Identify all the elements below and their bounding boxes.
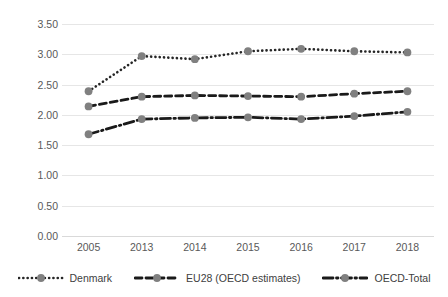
x-tick-label: 2017 [343, 241, 366, 253]
x-tick-label: 2005 [77, 241, 100, 253]
y-tick-label: 2.00 [2, 109, 58, 121]
x-tick-label: 2013 [130, 241, 153, 253]
data-point-marker [297, 45, 305, 53]
data-point-marker [404, 49, 412, 57]
legend-item-denmark[interactable]: Denmark [18, 272, 113, 284]
y-tick-label: 0.50 [2, 200, 58, 212]
data-point-marker [85, 87, 93, 95]
legend-swatch-icon [322, 272, 368, 284]
data-point-marker [297, 115, 305, 123]
data-point-marker [404, 87, 412, 95]
x-tick-label: 2016 [289, 241, 312, 253]
data-point-marker [297, 93, 305, 101]
data-point-marker [350, 112, 358, 120]
y-axis: 0.000.501.001.502.002.503.003.50 [0, 24, 58, 236]
series-denmark [85, 45, 412, 95]
data-point-marker [244, 113, 252, 121]
y-tick-label: 2.50 [2, 79, 58, 91]
legend-label: OECD-Total [374, 272, 430, 284]
series-line [89, 49, 408, 91]
data-point-marker [191, 92, 199, 100]
data-point-marker [191, 55, 199, 63]
x-axis: 2005201320142015201620172018 [62, 241, 434, 257]
y-tick-label: 1.00 [2, 169, 58, 181]
x-tick-label: 2014 [183, 241, 206, 253]
legend-label: Denmark [70, 272, 113, 284]
series-layer [62, 24, 434, 236]
data-point-marker [138, 115, 146, 123]
x-tick-label: 2018 [396, 241, 419, 253]
data-point-marker [138, 93, 146, 101]
legend-item-eu28-oecd-estimates[interactable]: EU28 (OECD estimates) [134, 272, 300, 284]
data-point-marker [138, 52, 146, 60]
legend-swatch-icon [18, 272, 64, 284]
plot-area [62, 24, 434, 236]
data-point-marker [350, 47, 358, 55]
data-point-marker [85, 130, 93, 138]
series-oecd-total [85, 108, 412, 138]
data-point-marker [191, 114, 199, 122]
y-tick-label: 3.00 [2, 48, 58, 60]
y-tick-label: 0.00 [2, 230, 58, 242]
y-tick-label: 1.50 [2, 139, 58, 151]
x-tick-label: 2015 [236, 241, 259, 253]
chart-legend: DenmarkEU28 (OECD estimates)OECD-Total [0, 266, 448, 290]
legend-item-oecd-total[interactable]: OECD-Total [322, 272, 430, 284]
legend-swatch-icon [134, 272, 180, 284]
data-point-marker [404, 108, 412, 116]
line-chart: 0.000.501.001.502.002.503.003.50 2005201… [0, 0, 448, 297]
series-eu28-oecd-estimates [85, 87, 412, 110]
data-point-marker [350, 90, 358, 98]
data-point-marker [244, 47, 252, 55]
data-point-marker [244, 92, 252, 100]
gridline [62, 236, 434, 237]
data-point-marker [85, 102, 93, 110]
y-tick-label: 3.50 [2, 18, 58, 30]
legend-label: EU28 (OECD estimates) [186, 272, 300, 284]
